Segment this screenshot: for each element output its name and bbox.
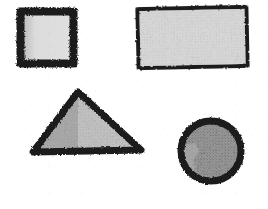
rectangle-fill <box>138 8 246 67</box>
square-shading <box>22 13 72 62</box>
shape-square <box>16 7 78 68</box>
shape-rectangle <box>135 5 250 70</box>
shape-circle <box>177 117 245 185</box>
shapes-canvas <box>0 0 268 209</box>
shape-triangle <box>28 88 145 155</box>
